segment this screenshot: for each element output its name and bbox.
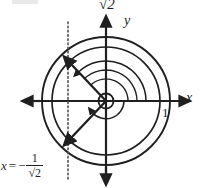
equation-equals-sign: =: [9, 159, 16, 172]
equation-minus-sign: −: [18, 159, 25, 172]
x-axis-label: x: [186, 91, 192, 105]
scan-artifact: [12, 0, 38, 4]
unit-tick-label: 1: [162, 106, 169, 119]
y-axis-label: y: [124, 14, 130, 28]
outer-radius-label: √2: [99, 0, 115, 12]
line-equation-label: x = − 1 √2: [1, 152, 43, 179]
fraction-numerator: 1: [29, 152, 41, 165]
fraction-denominator: √2: [26, 166, 43, 179]
equation-fraction: 1 √2: [26, 152, 43, 179]
equation-variable: x: [1, 159, 7, 172]
